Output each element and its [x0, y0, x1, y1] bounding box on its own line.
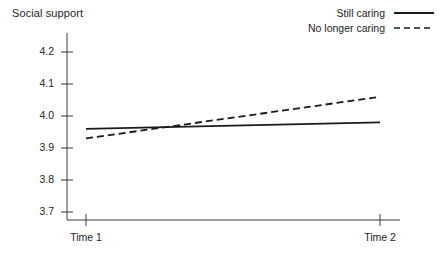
series-line-no-longer-caring — [86, 97, 380, 139]
y-tick-label: 4.2 — [24, 45, 54, 57]
y-tick-label: 4.0 — [24, 109, 54, 121]
y-tick-label: 3.7 — [24, 205, 54, 217]
y-tick-label: 4.1 — [24, 77, 54, 89]
x-tick-label: Time 1 — [56, 231, 116, 243]
y-tick-label: 3.8 — [24, 173, 54, 185]
y-tick-label: 3.9 — [24, 141, 54, 153]
line-chart: Social support Still caring No longer ca… — [0, 0, 444, 267]
x-tick-label: Time 2 — [350, 231, 410, 243]
series-line-still-caring — [86, 122, 380, 128]
plot-area — [0, 0, 444, 267]
